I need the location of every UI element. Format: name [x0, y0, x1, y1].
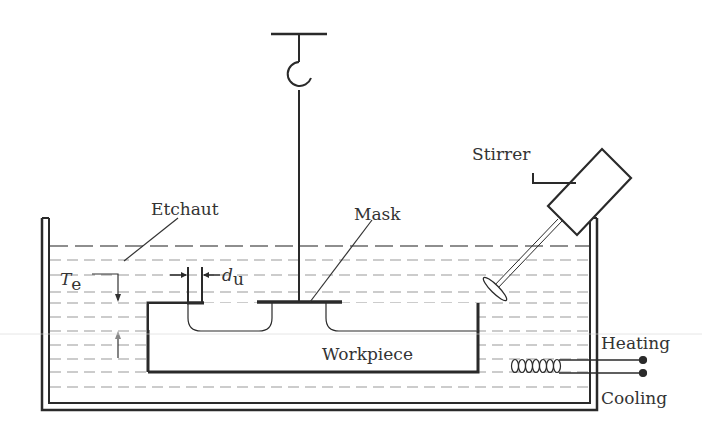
label-heating: Heating — [601, 333, 670, 353]
undercut-marker — [170, 267, 220, 304]
label-etchant: Etchaut — [151, 199, 219, 219]
label-du: du — [222, 265, 244, 289]
label-te-sub: e — [71, 274, 81, 294]
label-cooling: Cooling — [601, 388, 667, 408]
label-workpiece: Workpiece — [322, 344, 413, 364]
stirrer — [481, 149, 631, 303]
etching-diagram: Etchaut Mask Stirrer Workpiece Heating C… — [0, 0, 702, 439]
label-te: Te — [60, 269, 81, 294]
hook-icon — [271, 34, 327, 302]
label-stirrer: Stirrer — [472, 144, 531, 164]
workpiece — [148, 303, 478, 372]
label-mask: Mask — [354, 204, 401, 224]
label-du-sub: u — [233, 269, 244, 289]
label-du-main: d — [222, 265, 233, 285]
